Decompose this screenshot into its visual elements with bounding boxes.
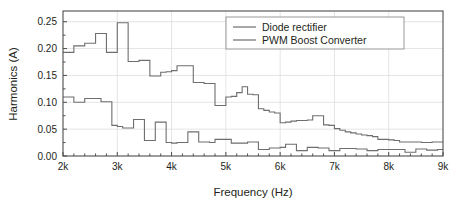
legend-label-diode-rectifier: Diode rectifier — [262, 21, 327, 33]
x-axis-title: Frequency (Hz) — [213, 186, 292, 198]
x-tick-label: 2k — [58, 161, 70, 172]
x-tick-label: 4k — [166, 161, 178, 172]
x-tick-label: 9k — [438, 161, 450, 172]
x-tick-label: 5k — [221, 161, 233, 172]
legend-label-pwm-boost-converter: PWM Boost Converter — [262, 34, 367, 46]
y-tick-label: 0.00 — [38, 151, 58, 162]
y-tick-label: 0.15 — [38, 70, 58, 81]
x-tick-label: 7k — [329, 161, 341, 172]
harmonics-frequency-step-chart: 2k3k4k5k6k7k8k9k 0.000.050.100.150.200.2… — [0, 0, 461, 213]
chart-legend: Diode rectifier PWM Boost Converter — [226, 17, 404, 49]
x-tick-label: 8k — [383, 161, 395, 172]
chart-container: 2k3k4k5k6k7k8k9k 0.000.050.100.150.200.2… — [0, 0, 461, 213]
x-tick-label: 3k — [112, 161, 124, 172]
y-tick-label: 0.20 — [38, 43, 58, 54]
y-tick-label: 0.10 — [38, 97, 58, 108]
y-tick-label: 0.05 — [38, 124, 58, 135]
y-tick-label: 0.25 — [38, 16, 58, 27]
x-tick-label: 6k — [275, 161, 287, 172]
y-axis-title: Harmonics (A) — [7, 47, 19, 121]
